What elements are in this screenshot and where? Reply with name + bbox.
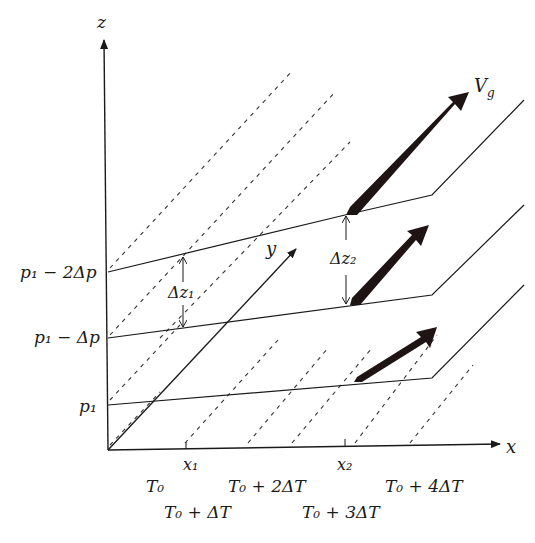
- dz2-label: Δz₂: [329, 249, 356, 268]
- thickness-markers: [183, 216, 346, 327]
- x2-label: x₂: [337, 455, 352, 474]
- level-label-p1-minus-2dp: p₁ − 2Δp: [20, 262, 97, 282]
- level-label-p1-minus-dp: p₁ − Δp: [34, 327, 100, 347]
- thermal-wind-diagram: z x y p₁ − 2Δp p₁ − Δp p₁ x₁ x₂ Δz₁ Δz₂ …: [0, 0, 535, 543]
- wind-arrow-high: [346, 92, 469, 215]
- isotherm-label-t0-plus-3dt: T₀ + 3ΔT: [302, 502, 381, 522]
- isotherm-label-t0: T₀: [146, 476, 164, 496]
- surface-p1-minus-dp: [108, 205, 524, 338]
- x-axis: [108, 444, 500, 450]
- wind-arrow-mid: [350, 225, 429, 305]
- y-axis-label: y: [265, 238, 277, 259]
- wind-label-subscript: g: [487, 86, 495, 100]
- isotherm-label-t0-plus-dt: T₀ + ΔT: [164, 502, 232, 522]
- level-label-p1: p₁: [79, 396, 97, 416]
- isotherm-label-t0-plus-2dt: T₀ + 2ΔT: [228, 476, 307, 496]
- z-axis-label: z: [96, 12, 107, 32]
- x1-label: x₁: [183, 455, 198, 474]
- geostrophic-wind-arrows: [346, 92, 469, 382]
- isotherm-label-t0-plus-4dt: T₀ + 4ΔT: [385, 476, 464, 496]
- wind-label: Vg: [474, 75, 495, 100]
- x-axis-label: x: [506, 436, 516, 457]
- surface-p1: [108, 285, 524, 405]
- z-axis: [104, 40, 108, 450]
- isobaric-surfaces: [108, 100, 524, 405]
- dz1-label: Δz₁: [167, 283, 194, 302]
- wind-arrow-low: [354, 327, 437, 382]
- surface-p1-minus-2dp: [108, 100, 524, 272]
